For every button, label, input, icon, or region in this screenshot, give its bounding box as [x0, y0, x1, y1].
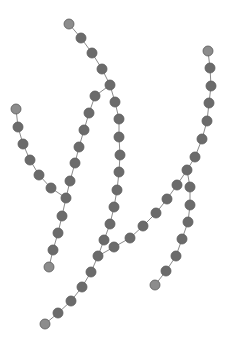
graph-node	[61, 193, 71, 203]
graph-leaf-node	[40, 319, 50, 329]
graph-node	[110, 97, 120, 107]
graph-node	[206, 81, 216, 91]
graph-node	[74, 142, 84, 152]
graph-node	[204, 98, 214, 108]
graph-node	[77, 282, 87, 292]
graph-node	[105, 219, 115, 229]
graph-node	[109, 242, 119, 252]
graph-node	[125, 233, 135, 243]
graph-node	[86, 267, 96, 277]
graph-node	[114, 167, 124, 177]
graph-node	[138, 221, 148, 231]
graph-node	[161, 266, 171, 276]
graph-leaf-node	[11, 104, 21, 114]
graph-node	[84, 108, 94, 118]
graph-node	[53, 228, 63, 238]
graph-node	[79, 125, 89, 135]
graph-node	[197, 134, 207, 144]
graph-node	[112, 185, 122, 195]
graph-leaf-node	[44, 262, 54, 272]
graph-node	[25, 155, 35, 165]
graph-node	[48, 245, 58, 255]
graph-node	[34, 170, 44, 180]
graph-node	[46, 183, 56, 193]
graph-node	[172, 180, 182, 190]
edge-layer	[16, 24, 211, 324]
graph-node	[190, 152, 200, 162]
graph-leaf-node	[203, 46, 213, 56]
graph-node	[183, 217, 193, 227]
graph-node	[185, 200, 195, 210]
graph-node	[57, 211, 67, 221]
node-layer	[11, 19, 216, 329]
graph-node	[162, 194, 172, 204]
graph-node	[66, 296, 76, 306]
graph-node	[70, 158, 80, 168]
graph-node	[177, 234, 187, 244]
graph-node	[114, 132, 124, 142]
graph-node	[115, 150, 125, 160]
graph-leaf-node	[64, 19, 74, 29]
graph-node	[13, 122, 23, 132]
graph-node	[151, 208, 161, 218]
graph-node	[202, 116, 212, 126]
graph-node	[182, 165, 192, 175]
graph-node	[205, 63, 215, 73]
graph-node	[76, 33, 86, 43]
graph-leaf-node	[150, 280, 160, 290]
graph-node	[105, 80, 115, 90]
graph-node	[87, 48, 97, 58]
graph-node	[97, 64, 107, 74]
graph-node	[114, 114, 124, 124]
graph-node	[90, 91, 100, 101]
graph-node	[171, 251, 181, 261]
graph-node	[65, 176, 75, 186]
tree-graph-canvas	[0, 0, 230, 341]
graph-node	[185, 182, 195, 192]
graph-node	[18, 139, 28, 149]
graph-node	[93, 251, 103, 261]
graph-node	[53, 308, 63, 318]
graph-node	[109, 202, 119, 212]
graph-node	[99, 235, 109, 245]
